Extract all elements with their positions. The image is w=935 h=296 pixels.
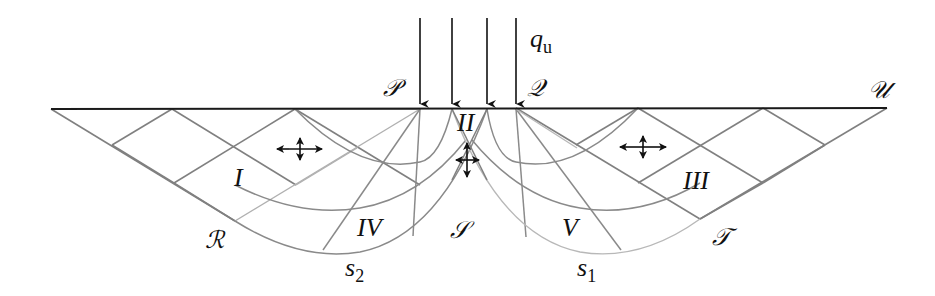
point-label-s: 𝒮 — [450, 218, 469, 242]
region-label-i: I — [234, 165, 243, 191]
point-label-p: 𝒫 — [383, 76, 400, 100]
region-v-fan — [472, 108, 700, 250]
slip-label-s2: s2 — [345, 255, 364, 285]
point-label-q: 𝒬 — [527, 76, 544, 100]
load-label: qu — [530, 26, 552, 56]
region-label-iii: III — [683, 168, 709, 194]
region-label-v: V — [562, 215, 578, 241]
point-label-t: 𝒯 — [712, 225, 730, 249]
point-label-r: ℛ — [205, 228, 224, 252]
stress-cross-icon — [620, 136, 666, 158]
region-label-ii: II — [457, 110, 474, 136]
slip-line-field-drawing — [0, 0, 935, 296]
slip-line-field-diagram: qu 𝒫 𝒬 𝒰 ℛ 𝒮 𝒯 I II III IV V s2 s1 — [0, 0, 935, 296]
region-iii-grid — [516, 108, 887, 219]
stress-cross-icon — [277, 138, 322, 160]
slip-label-s1: s1 — [577, 255, 596, 285]
point-label-u: 𝒰 — [868, 78, 890, 102]
load-arrows — [420, 18, 516, 104]
region-label-iv: IV — [357, 215, 382, 241]
